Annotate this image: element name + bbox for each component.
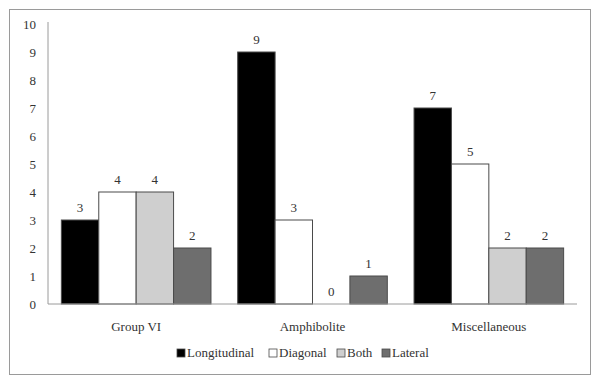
- data-label: 3: [77, 200, 84, 215]
- legend: LongitudinalDiagonalBothLateral: [177, 345, 429, 360]
- data-label: 4: [114, 172, 121, 187]
- bar-longitudinal: [238, 52, 275, 304]
- data-label: 4: [152, 172, 159, 187]
- bar-diagonal: [275, 220, 312, 304]
- bar-both: [136, 192, 173, 304]
- bar-chart: 012345678910 344293017522 Group VIAmphib…: [0, 0, 601, 381]
- y-tick-label: 5: [30, 157, 37, 172]
- legend-swatch-icon: [382, 349, 390, 357]
- y-tick-label: 9: [30, 45, 37, 60]
- bar-both: [489, 248, 526, 304]
- legend-item-diagonal: Diagonal: [269, 345, 327, 360]
- data-label: 2: [542, 228, 549, 243]
- y-tick-label: 2: [30, 241, 37, 256]
- y-tick-label: 3: [30, 213, 37, 228]
- bar-lateral: [174, 248, 211, 304]
- bar-lateral: [526, 248, 563, 304]
- legend-label: Diagonal: [279, 345, 327, 360]
- x-axis: Group VIAmphiboliteMiscellaneous: [48, 304, 577, 334]
- y-axis: 012345678910: [23, 17, 48, 312]
- data-label: 2: [504, 228, 511, 243]
- legend-item-both: Both: [337, 345, 373, 360]
- bar-diagonal: [99, 192, 136, 304]
- data-label: 0: [328, 284, 335, 299]
- legend-swatch-icon: [337, 349, 345, 357]
- legend-label: Longitudinal: [187, 345, 255, 360]
- data-label: 2: [189, 228, 196, 243]
- y-tick-label: 1: [30, 269, 37, 284]
- category-label: Amphibolite: [280, 319, 346, 334]
- y-tick-label: 6: [30, 129, 37, 144]
- y-tick-label: 10: [23, 17, 36, 32]
- bar-longitudinal: [414, 108, 451, 304]
- legend-swatch-icon: [269, 349, 277, 357]
- legend-swatch-icon: [177, 349, 185, 357]
- data-label: 5: [467, 144, 474, 159]
- data-label: 1: [365, 256, 372, 271]
- legend-label: Both: [347, 345, 373, 360]
- legend-item-lateral: Lateral: [382, 345, 429, 360]
- bar-series: 344293017522: [61, 32, 563, 304]
- bar-longitudinal: [61, 220, 98, 304]
- data-label: 3: [291, 200, 298, 215]
- bar-lateral: [350, 276, 387, 304]
- bar-diagonal: [451, 164, 488, 304]
- y-tick-label: 8: [30, 73, 37, 88]
- category-label: Group VI: [111, 319, 161, 334]
- data-label: 7: [429, 88, 436, 103]
- y-tick-label: 4: [30, 185, 37, 200]
- y-tick-label: 7: [30, 101, 37, 116]
- y-tick-label: 0: [30, 297, 37, 312]
- legend-item-longitudinal: Longitudinal: [177, 345, 255, 360]
- legend-label: Lateral: [392, 345, 429, 360]
- data-label: 9: [253, 32, 260, 47]
- category-label: Miscellaneous: [451, 319, 526, 334]
